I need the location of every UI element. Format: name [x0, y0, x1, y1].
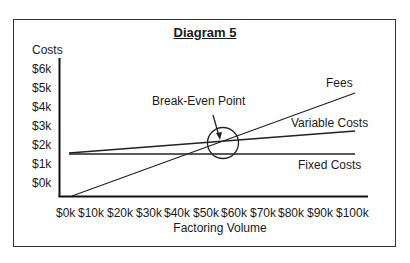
variable-costs-label: Variable Costs — [291, 116, 368, 130]
fixed-costs-label: Fixed Costs — [298, 158, 361, 172]
x-tick-20k: $20k — [107, 206, 133, 220]
x-tick-10k: $10k — [78, 206, 104, 220]
arrow-head-icon — [216, 132, 222, 140]
variable-costs-line — [69, 131, 355, 153]
x-tick-60k: $60k — [221, 206, 247, 220]
x-tick-40k: $40k — [164, 206, 190, 220]
x-tick-100k: $100k — [336, 206, 369, 220]
break-even-label: Break-Even Point — [152, 94, 245, 108]
x-tick-50k: $50k — [193, 206, 219, 220]
fees-line — [72, 93, 355, 196]
x-tick-90k: $90k — [307, 206, 333, 220]
fees-label: Fees — [326, 76, 353, 90]
x-tick-70k: $70k — [250, 206, 276, 220]
x-axis-label: Factoring Volume — [0, 221, 410, 235]
x-tick-30k: $30k — [136, 206, 162, 220]
x-tick-0k: $0k — [56, 206, 75, 220]
x-tick-80k: $80k — [278, 206, 304, 220]
